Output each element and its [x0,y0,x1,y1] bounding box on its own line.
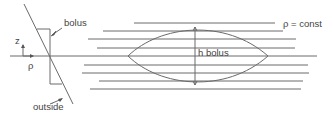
bolus-pointer-arrowhead-icon [51,31,56,36]
z-axis-label: z [15,35,20,46]
z-arrowhead-icon [21,44,25,48]
rho-const-label: ρ = const [283,18,322,29]
outside-label: outside [33,101,64,112]
bolus-label: bolus [64,17,87,28]
h-bolus-label: h bolus [198,47,229,58]
rho-const-lines [10,23,317,89]
bolus-diagram: h bolus ρ = const bolus z ρ outside [0,0,334,114]
rho-arrowhead-icon [30,54,34,58]
rho-axis-label: ρ [28,60,34,71]
